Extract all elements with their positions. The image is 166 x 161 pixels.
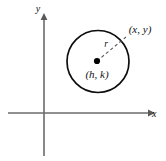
radius-label: r <box>104 39 108 49</box>
x-axis-label: x <box>151 108 157 119</box>
circle-diagram-canvas: x y r (h, k) (x, y) <box>0 0 166 161</box>
y-axis-label: y <box>35 3 41 14</box>
radius-dashed-line <box>97 37 126 61</box>
circle-point-coordinate-label: (x, y) <box>129 23 152 36</box>
circle-diagram-svg: x y r (h, k) (x, y) <box>0 0 166 161</box>
y-axis-arrowhead <box>41 13 48 20</box>
center-point-dot <box>94 58 100 64</box>
center-coordinate-label: (h, k) <box>85 68 109 81</box>
